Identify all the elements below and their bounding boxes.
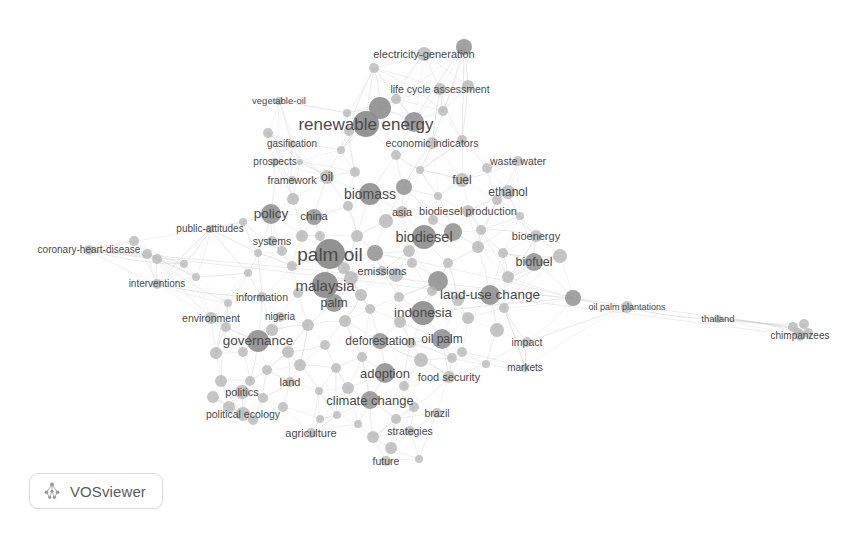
graph-node[interactable] — [278, 402, 288, 412]
graph-node[interactable] — [482, 163, 492, 173]
graph-node[interactable] — [315, 231, 325, 241]
graph-node[interactable] — [443, 258, 453, 268]
graph-node[interactable] — [337, 146, 345, 154]
graph-node[interactable] — [263, 128, 273, 138]
graph-node[interactable] — [482, 360, 490, 368]
graph-node[interactable] — [288, 176, 296, 184]
graph-node[interactable] — [498, 248, 508, 258]
graph-node[interactable] — [456, 39, 472, 55]
graph-node[interactable] — [381, 456, 391, 466]
graph-node[interactable] — [223, 401, 235, 413]
graph-node[interactable] — [320, 170, 334, 184]
graph-node[interactable] — [306, 428, 316, 438]
graph-node[interactable] — [501, 185, 515, 199]
graph-node[interactable] — [275, 312, 285, 322]
graph-node[interactable] — [205, 312, 217, 324]
graph-node[interactable] — [152, 279, 162, 289]
graph-node[interactable] — [455, 173, 469, 187]
graph-node[interactable] — [306, 209, 322, 225]
graph-node[interactable] — [343, 109, 351, 117]
graph-node[interactable] — [367, 245, 383, 261]
graph-node[interactable] — [339, 315, 351, 327]
graph-node[interactable] — [357, 352, 367, 362]
graph-node[interactable] — [277, 246, 287, 256]
graph-node[interactable] — [415, 455, 423, 463]
graph-node[interactable] — [359, 183, 381, 205]
graph-node[interactable] — [428, 215, 438, 225]
graph-node[interactable] — [239, 218, 247, 226]
graph-node[interactable] — [432, 408, 442, 418]
graph-node[interactable] — [490, 323, 504, 337]
graph-node[interactable] — [180, 260, 188, 268]
graph-node[interactable] — [447, 353, 457, 363]
graph-node[interactable] — [215, 375, 227, 387]
graph-node[interactable] — [282, 346, 294, 358]
graph-node[interactable] — [361, 391, 379, 409]
graph-node[interactable] — [210, 347, 222, 359]
graph-node[interactable] — [434, 83, 446, 95]
graph-node[interactable] — [254, 249, 262, 257]
graph-node[interactable] — [403, 245, 415, 257]
graph-node[interactable] — [367, 431, 379, 443]
vosviewer-logo-badge[interactable]: VOSviewer — [29, 473, 163, 509]
graph-node[interactable] — [379, 214, 393, 228]
graph-node[interactable] — [462, 312, 474, 324]
graph-node[interactable] — [353, 111, 379, 137]
graph-node[interactable] — [457, 135, 467, 145]
graph-node[interactable] — [476, 225, 486, 235]
graph-node[interactable] — [235, 385, 249, 399]
graph-node[interactable] — [288, 140, 296, 148]
graph-node[interactable] — [245, 376, 255, 386]
graph-node[interactable] — [389, 268, 403, 282]
graph-node[interactable] — [391, 150, 401, 160]
graph-node[interactable] — [434, 192, 442, 200]
graph-node[interactable] — [502, 271, 514, 283]
graph-node[interactable] — [553, 249, 567, 263]
graph-node[interactable] — [714, 315, 722, 323]
graph-node[interactable] — [152, 254, 162, 264]
graph-node[interactable] — [452, 294, 464, 306]
graph-node[interactable] — [331, 363, 341, 373]
graph-node[interactable] — [343, 201, 353, 211]
graph-node[interactable] — [287, 193, 299, 205]
graph-node[interactable] — [621, 301, 633, 313]
graph-node[interactable] — [391, 94, 401, 104]
graph-node[interactable] — [414, 353, 428, 367]
graph-node[interactable] — [472, 241, 484, 253]
graph-node[interactable] — [480, 285, 500, 305]
graph-node[interactable] — [238, 347, 248, 357]
graph-node[interactable] — [530, 230, 542, 242]
graph-node[interactable] — [391, 414, 401, 424]
graph-node[interactable] — [315, 387, 323, 395]
graph-node[interactable] — [443, 371, 455, 383]
graph-node[interactable] — [525, 253, 543, 271]
graph-node[interactable] — [261, 204, 281, 224]
graph-node[interactable] — [338, 262, 350, 274]
graph-node[interactable] — [799, 319, 809, 329]
graph-node[interactable] — [262, 365, 272, 375]
graph-node[interactable] — [325, 294, 343, 312]
graph-node[interactable] — [416, 166, 424, 174]
graph-node[interactable] — [462, 205, 474, 217]
graph-node[interactable] — [412, 225, 436, 249]
graph-node[interactable] — [406, 338, 416, 348]
graph-node[interactable] — [267, 236, 277, 246]
graph-node[interactable] — [257, 292, 267, 302]
graph-node[interactable] — [385, 442, 397, 454]
graph-node[interactable] — [438, 106, 448, 116]
graph-node[interactable] — [275, 97, 283, 105]
graph-node[interactable] — [294, 359, 306, 371]
graph-node[interactable] — [396, 179, 412, 195]
graph-node[interactable] — [399, 381, 409, 391]
graph-node[interactable] — [492, 195, 502, 205]
graph-node[interactable] — [365, 304, 375, 314]
graph-node[interactable] — [266, 324, 278, 336]
graph-node[interactable] — [394, 292, 404, 302]
graph-node[interactable] — [296, 230, 308, 242]
graph-node[interactable] — [142, 249, 152, 259]
graph-node[interactable] — [377, 266, 387, 276]
graph-node[interactable] — [513, 156, 523, 166]
graph-node[interactable] — [244, 269, 252, 277]
graph-node[interactable] — [206, 225, 214, 233]
graph-node[interactable] — [354, 420, 362, 428]
